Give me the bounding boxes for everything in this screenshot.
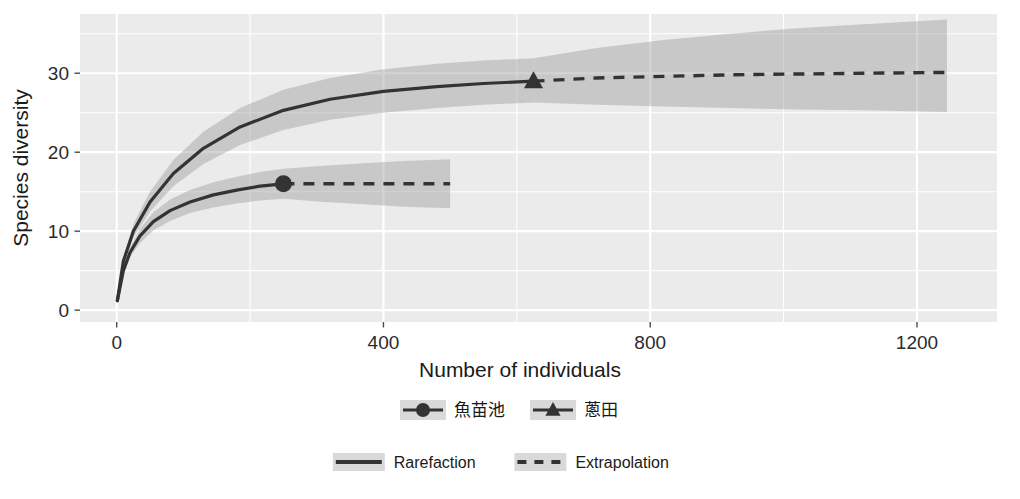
legend-entry-site[interactable]: 魚苗池	[400, 400, 505, 420]
legend-marker-circle	[416, 403, 430, 417]
x-tick-label: 400	[368, 332, 400, 353]
site-legend[interactable]: 魚苗池蔥田	[400, 400, 618, 420]
x-tick-label: 800	[634, 332, 666, 353]
legend-entry-method[interactable]: Extrapolation	[514, 453, 668, 471]
chart-canvas: 04008001200 0102030 Number of individual…	[0, 0, 1020, 499]
x-tick-label: 0	[111, 332, 122, 353]
legend-label-method: Rarefaction	[394, 454, 476, 471]
rarefaction-extrapolation-chart: 04008001200 0102030 Number of individual…	[0, 0, 1020, 499]
y-axis-ticks: 0102030	[48, 63, 80, 321]
y-tick-label: 20	[48, 142, 69, 163]
legend-entry-method[interactable]: Rarefaction	[333, 453, 476, 471]
marker-circle	[275, 175, 292, 192]
y-tick-label: 10	[48, 221, 69, 242]
x-axis-ticks: 04008001200	[111, 322, 938, 353]
legend-label-site: 蔥田	[584, 400, 618, 420]
method-legend[interactable]: RarefactionExtrapolation	[333, 453, 669, 471]
x-tick-label: 1200	[896, 332, 938, 353]
y-tick-label: 0	[58, 300, 69, 321]
legend-label-method: Extrapolation	[575, 454, 668, 471]
x-axis-title: Number of individuals	[419, 358, 621, 381]
y-tick-label: 30	[48, 63, 69, 84]
legend-label-site: 魚苗池	[454, 400, 505, 420]
legend-entry-site[interactable]: 蔥田	[530, 400, 618, 420]
y-axis-title: Species diversity	[9, 89, 32, 247]
